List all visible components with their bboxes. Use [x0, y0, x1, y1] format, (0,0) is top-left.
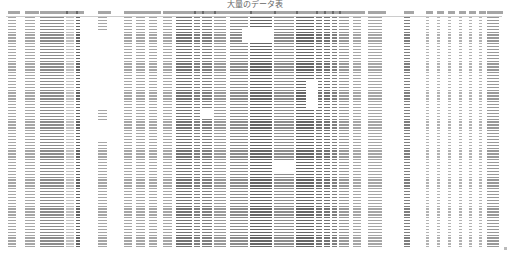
page-title: 大量のデータ表: [0, 0, 509, 9]
column-header[interactable]: [163, 11, 176, 14]
column-header[interactable]: [250, 11, 276, 14]
column-header[interactable]: [176, 11, 196, 14]
scrollbar-thumb[interactable]: [504, 247, 507, 250]
table-column: [339, 17, 349, 248]
table-column: [426, 17, 429, 248]
table-column: [459, 17, 462, 248]
table-column: [404, 17, 410, 248]
table-column: [25, 17, 35, 248]
table-column: [368, 17, 382, 248]
table-column: [194, 17, 200, 248]
empty-cell-region: [274, 160, 294, 172]
table-column: [202, 17, 212, 248]
table-column: [250, 17, 272, 248]
column-header[interactable]: [296, 11, 318, 14]
column-header[interactable]: [437, 11, 444, 14]
table-column: [448, 17, 451, 248]
table-column: [66, 17, 74, 248]
table-column: [324, 17, 330, 248]
column-header[interactable]: [469, 11, 476, 14]
column-header[interactable]: [76, 11, 84, 14]
table-column: [40, 17, 64, 248]
table-column: [149, 17, 157, 248]
empty-cell-region: [98, 120, 107, 140]
table-column: [163, 17, 172, 248]
column-header[interactable]: [404, 11, 414, 14]
column-header[interactable]: [149, 11, 161, 14]
table-column: [296, 17, 314, 248]
column-header[interactable]: [214, 11, 230, 14]
column-header[interactable]: [448, 11, 455, 14]
column-header[interactable]: [426, 11, 433, 14]
table-column: [469, 17, 472, 248]
table-column: [230, 17, 248, 248]
empty-cell-region: [98, 30, 107, 110]
column-header[interactable]: [98, 11, 111, 14]
column-header[interactable]: [136, 11, 149, 14]
column-header[interactable]: [274, 11, 298, 14]
column-header[interactable]: [230, 11, 252, 14]
empty-cell-region: [306, 80, 318, 108]
table-column: [214, 17, 226, 248]
table-column: [124, 17, 132, 248]
column-header[interactable]: [459, 11, 466, 14]
column-header[interactable]: [487, 11, 503, 14]
vertical-scrollbar[interactable]: [504, 10, 507, 250]
column-header[interactable]: [368, 11, 386, 14]
column-header[interactable]: [479, 11, 486, 14]
table-column: [487, 17, 499, 248]
table-column: [136, 17, 145, 248]
column-header[interactable]: [339, 11, 353, 14]
empty-cell-region: [202, 110, 212, 118]
table-column: [176, 17, 192, 248]
table-column: [274, 17, 294, 248]
column-header[interactable]: [353, 11, 365, 14]
table-column: [8, 17, 16, 248]
table-column: [479, 17, 482, 248]
data-table[interactable]: [6, 10, 502, 250]
table-header-row: [6, 10, 502, 17]
table-column: [76, 17, 80, 248]
column-header[interactable]: [124, 11, 136, 14]
column-header[interactable]: [25, 11, 39, 14]
table-column: [316, 17, 322, 248]
table-column: [353, 17, 361, 248]
column-header[interactable]: [40, 11, 68, 14]
table-column: [437, 17, 440, 248]
table-column: [332, 17, 337, 248]
empty-cell-region: [242, 28, 272, 42]
column-header[interactable]: [8, 11, 20, 14]
